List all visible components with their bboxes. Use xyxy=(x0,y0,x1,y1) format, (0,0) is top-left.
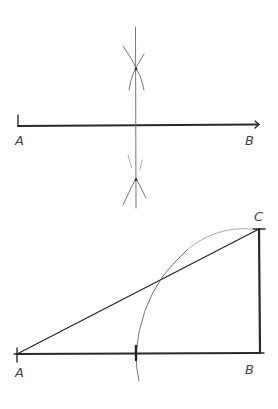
lower-intersection-point xyxy=(135,179,138,182)
label-bottom-b: B xyxy=(245,362,254,377)
lower-arc-left-top xyxy=(128,155,132,168)
upper-intersection-point xyxy=(135,68,138,71)
label-bottom-a: A xyxy=(14,365,24,380)
segment-ab-base xyxy=(17,353,260,354)
label-bottom-c: C xyxy=(254,209,264,224)
lower-arc-right-top xyxy=(140,160,142,170)
bisector-figure: A B xyxy=(14,27,259,208)
segment-bc xyxy=(259,229,260,353)
geometry-diagram: A B C A B xyxy=(0,0,278,409)
lower-arc-left xyxy=(123,178,136,205)
label-top-a: A xyxy=(14,133,24,148)
upper-arc-left xyxy=(123,46,144,90)
construction-arc xyxy=(136,276,163,381)
segment-ab xyxy=(18,125,258,127)
triangle-figure: C A B xyxy=(14,209,265,381)
arc-top-faint xyxy=(187,229,252,250)
label-top-b: B xyxy=(245,133,254,148)
lower-arc-right xyxy=(136,178,146,198)
